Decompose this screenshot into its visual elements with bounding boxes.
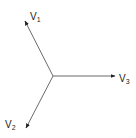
vector-v2-line (26, 76, 53, 128)
vector-v2-label: V2 (5, 119, 16, 131)
vector-v3-label: V3 (119, 73, 130, 85)
vector-v1-label: V1 (30, 11, 41, 23)
vector-diagram: V1 V2 V3 (0, 0, 136, 138)
vector-v1-line (25, 21, 53, 76)
